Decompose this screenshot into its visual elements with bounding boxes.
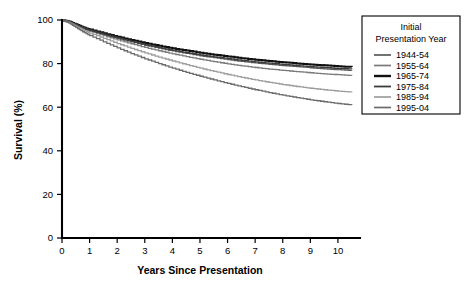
y-tick-label: 80 [42,58,53,69]
legend-label-1985-94: 1985-94 [396,92,429,102]
survival-chart-figure: 020406080100 012345678910 Survival (%) Y… [0,0,465,284]
legend-label-1995-04: 1995-04 [396,103,429,113]
legend-label-1965-74: 1965-74 [396,71,429,81]
legend-title-line-1: Initial [400,22,421,32]
x-tick-label: 0 [59,245,64,256]
x-tick-label: 9 [308,245,313,256]
x-tick-label: 5 [197,245,202,256]
y-tick-label: 60 [42,102,53,113]
y-tick-label: 0 [48,232,53,243]
axes-group: 020406080100 012345678910 [37,14,360,256]
x-tick-label: 3 [142,245,147,256]
y-tick-label: 20 [42,189,53,200]
curves-group [62,20,352,105]
survival-curve-1944-54 [62,20,352,71]
x-tick-label: 2 [115,245,120,256]
y-axis-title: Survival (%) [12,100,24,160]
x-tick-label: 6 [225,245,230,256]
y-tick-label: 100 [37,14,53,25]
survival-curve-1975-84 [62,20,352,69]
legend-label-1955-64: 1955-64 [396,61,429,71]
x-axis-ticks: 012345678910 [59,238,343,256]
chart-canvas: 020406080100 012345678910 Survival (%) Y… [0,0,465,284]
y-axis-ticks: 020406080100 [37,14,62,243]
x-tick-label: 10 [333,245,344,256]
x-tick-label: 4 [170,245,175,256]
legend-title-line-2: Presentation Year [375,34,446,44]
chart-legend: Initial Presentation Year 1944-541955-64… [362,16,460,114]
y-tick-label: 40 [42,145,53,156]
x-tick-label: 8 [280,245,285,256]
legend-label-1975-84: 1975-84 [396,82,429,92]
x-tick-label: 1 [87,245,92,256]
legend-label-1944-54: 1944-54 [396,50,429,60]
x-axis-title: Years Since Presentation [137,264,262,276]
x-tick-label: 7 [252,245,257,256]
